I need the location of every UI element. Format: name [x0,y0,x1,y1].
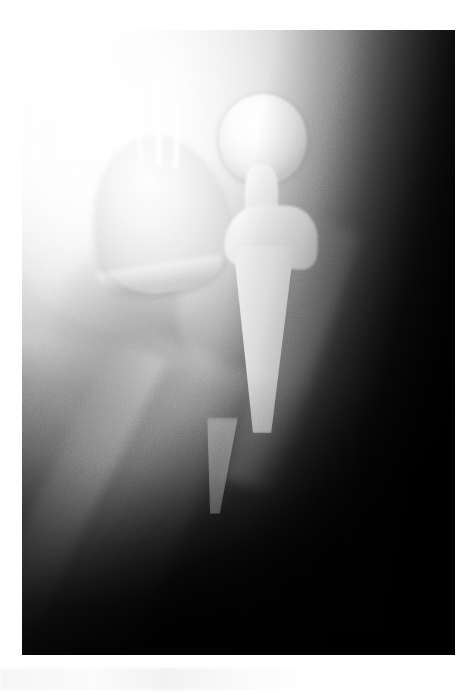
scan-artifact-strip [0,668,320,690]
radiograph-image [22,30,455,655]
page-root: Total hip arthroplasty [0,0,475,695]
radiograph-caption [0,0,1,1]
implant-name-label: Total hip arthroplasty [0,0,1,1]
bottom-exposure-falloff [22,30,455,655]
